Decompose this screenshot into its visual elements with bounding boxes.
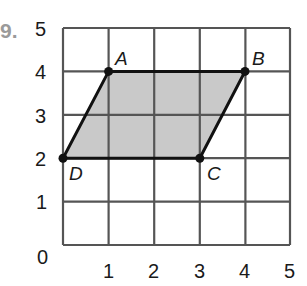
vertex-label-a: A: [115, 49, 128, 68]
y-label-1: 1: [36, 192, 47, 212]
x-label-1: 1: [103, 261, 114, 281]
y-label-5: 5: [35, 19, 46, 39]
x-label-5: 5: [284, 261, 295, 281]
vertex-label-b: B: [252, 49, 265, 68]
x-label-4: 4: [239, 261, 250, 281]
problem-number: 9.: [0, 19, 18, 43]
y-label-3: 3: [35, 106, 46, 126]
x-label-3: 3: [194, 261, 205, 281]
vertex-a-dot: [104, 67, 113, 76]
vertex-d-dot: [59, 154, 68, 163]
y-label-2: 2: [35, 149, 46, 169]
x-label-2: 2: [148, 261, 159, 281]
coordinate-grid: [0, 0, 307, 286]
y-label-4: 4: [35, 62, 46, 82]
vertex-label-c: C: [207, 164, 221, 183]
y-label-0: 0: [37, 247, 48, 267]
vertex-label-d: D: [69, 164, 83, 183]
vertex-b-dot: [241, 67, 250, 76]
vertex-c-dot: [195, 154, 204, 163]
